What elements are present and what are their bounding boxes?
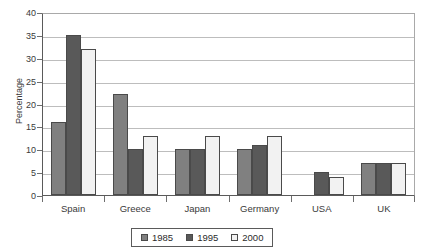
chart-legend: 198519952000 <box>131 228 273 247</box>
bar-group <box>352 14 414 195</box>
legend-item[interactable]: 1985 <box>141 232 173 243</box>
bar[interactable] <box>252 145 267 195</box>
x-axis-label: Spain <box>42 203 104 214</box>
y-axis-tick-label: 30 <box>12 54 36 64</box>
bar[interactable] <box>391 163 406 195</box>
bar-group <box>228 14 290 195</box>
y-axis-tick-label: 15 <box>12 122 36 132</box>
x-axis-tick-marks <box>42 196 415 202</box>
bar-group <box>105 14 167 195</box>
bar[interactable] <box>128 149 143 195</box>
x-axis-tick-mark <box>291 196 292 202</box>
x-axis-tick-mark <box>42 196 43 202</box>
y-axis-tick-labels: 0510152025303540 <box>12 13 36 196</box>
legend-swatch-icon <box>186 234 193 241</box>
x-axis-label: Greece <box>104 203 166 214</box>
x-axis-label: USA <box>291 203 353 214</box>
legend-label: 1995 <box>197 232 218 243</box>
x-axis-label: UK <box>353 203 415 214</box>
y-axis-tick-label: 40 <box>12 8 36 18</box>
bar-group <box>167 14 229 195</box>
bar-group <box>290 14 352 195</box>
bar[interactable] <box>205 136 220 195</box>
legend-item[interactable]: 1995 <box>186 232 218 243</box>
bar[interactable] <box>237 149 252 195</box>
legend-label: 1985 <box>152 232 173 243</box>
bar[interactable] <box>314 172 329 195</box>
legend-swatch-icon <box>231 234 238 241</box>
x-axis-tick-mark <box>353 196 354 202</box>
bar-chart: Percentage 0510152025303540 SpainGreeceJ… <box>0 0 431 252</box>
bar-group <box>43 14 105 195</box>
x-axis-tick-mark <box>104 196 105 202</box>
y-axis-tick-label: 5 <box>12 168 36 178</box>
bar[interactable] <box>143 136 158 195</box>
legend-swatch-icon <box>141 234 148 241</box>
y-axis-tick-label: 25 <box>12 77 36 87</box>
x-axis-tick-mark <box>414 196 415 202</box>
y-axis-tick-label: 0 <box>12 191 36 201</box>
bar[interactable] <box>113 94 128 195</box>
bar-groups <box>43 14 414 195</box>
legend-item[interactable]: 2000 <box>231 232 263 243</box>
x-axis-label: Germany <box>229 203 291 214</box>
bar[interactable] <box>190 149 205 195</box>
legend-label: 2000 <box>242 232 263 243</box>
y-axis-tick-label: 20 <box>12 100 36 110</box>
plot-area <box>42 13 415 196</box>
bar[interactable] <box>361 163 376 195</box>
bar[interactable] <box>51 122 66 195</box>
bar[interactable] <box>376 163 391 195</box>
bar[interactable] <box>329 177 344 195</box>
x-axis-tick-mark <box>229 196 230 202</box>
x-axis-label: Japan <box>166 203 228 214</box>
y-axis-tick-label: 35 <box>12 31 36 41</box>
bar[interactable] <box>267 136 282 195</box>
x-axis-labels: SpainGreeceJapanGermanyUSAUK <box>42 203 415 214</box>
bar[interactable] <box>175 149 190 195</box>
bar[interactable] <box>81 49 96 195</box>
x-axis-tick-mark <box>166 196 167 202</box>
bar[interactable] <box>66 35 81 195</box>
y-axis-tick-label: 10 <box>12 145 36 155</box>
